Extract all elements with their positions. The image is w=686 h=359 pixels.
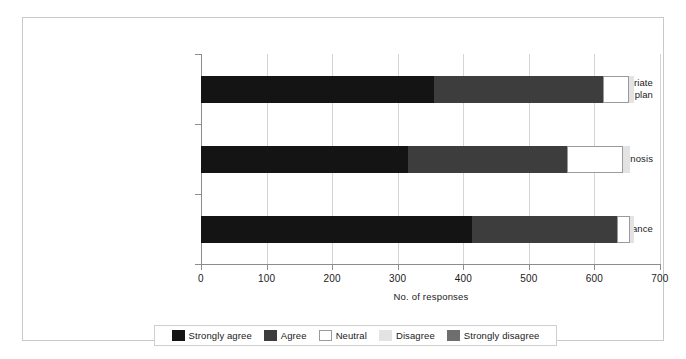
x-axis-tick-label: 0 xyxy=(198,273,204,284)
bar-segment xyxy=(623,146,631,173)
bar-segment xyxy=(201,76,434,103)
legend-label: Strongly disagree xyxy=(464,330,540,341)
bar-group xyxy=(201,216,660,243)
x-axis-tick xyxy=(267,265,268,270)
y-axis-tick xyxy=(195,124,201,125)
bar-segment xyxy=(617,216,630,243)
y-axis-tick xyxy=(195,54,201,55)
bar-segment xyxy=(630,216,634,243)
x-axis-tick xyxy=(463,265,464,270)
gridline xyxy=(660,54,661,264)
legend-swatch-icon xyxy=(264,330,277,341)
legend-item[interactable]: Neutral xyxy=(319,330,367,341)
bar-segment xyxy=(201,216,472,243)
bar-segment xyxy=(603,76,629,103)
x-axis-tick xyxy=(594,265,595,270)
x-axis-tick-label: 700 xyxy=(651,273,668,284)
bar-segment xyxy=(201,146,408,173)
bar-segment xyxy=(629,76,634,103)
bar-segment xyxy=(408,146,567,173)
chart-legend: Strongly agreeAgreeNeutralDisagreeStrong… xyxy=(154,325,557,346)
x-axis-tick xyxy=(529,265,530,270)
y-axis-tick xyxy=(195,194,201,195)
legend-item[interactable]: Agree xyxy=(264,330,307,341)
x-axis-tick xyxy=(332,265,333,270)
x-axis-tick-label: 200 xyxy=(323,273,340,284)
x-axis-tick-label: 100 xyxy=(258,273,275,284)
legend-swatch-icon xyxy=(319,330,332,341)
x-axis-tick xyxy=(201,265,202,270)
x-axis-tick-label: 500 xyxy=(520,273,537,284)
bar-segment xyxy=(567,146,623,173)
bar-segment xyxy=(434,76,603,103)
legend-item[interactable]: Strongly disagree xyxy=(447,330,540,341)
legend-item[interactable]: Strongly agree xyxy=(172,330,252,341)
bar-group xyxy=(201,76,660,103)
legend-swatch-icon xyxy=(447,330,460,341)
x-axis-title: No. of responses xyxy=(201,291,661,302)
x-axis-line xyxy=(201,264,661,265)
legend-label: Agree xyxy=(281,330,307,341)
legend-swatch-icon xyxy=(172,330,185,341)
legend-label: Strongly agree xyxy=(189,330,252,341)
x-axis-tick xyxy=(398,265,399,270)
bar-segment xyxy=(472,216,618,243)
legend-label: Disagree xyxy=(396,330,435,341)
legend-swatch-icon xyxy=(379,330,392,341)
legend-item[interactable]: Disagree xyxy=(379,330,435,341)
x-axis-tick-label: 300 xyxy=(389,273,406,284)
x-axis-tick-label: 400 xyxy=(455,273,472,284)
bar-group xyxy=(201,146,660,173)
x-axis-tick-label: 600 xyxy=(586,273,603,284)
legend-label: Neutral xyxy=(336,330,367,341)
x-axis-tick xyxy=(660,265,661,270)
chart-figure-frame: 0100200300400500600700 No. of responses … xyxy=(22,17,664,341)
